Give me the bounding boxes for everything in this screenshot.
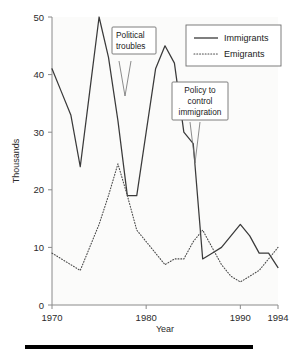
x-tick-label: 1970 [41, 312, 62, 323]
y-tick-label: 50 [33, 12, 44, 23]
x-axis: 1970198019901994 Year [41, 305, 288, 334]
y-axis-title: Thousands [11, 138, 21, 183]
chart-figure: 01020304050 Thousands 1970198019901994 Y… [0, 0, 306, 357]
annotation-line-1: Policy to [184, 85, 216, 95]
legend-box [186, 25, 281, 66]
y-axis-tickmarks [48, 17, 52, 305]
annotation-line-2: troubles [116, 41, 146, 51]
y-tick-label: 0 [39, 300, 44, 311]
x-tick-label: 1994 [267, 312, 288, 323]
bottom-divider-rule [25, 345, 253, 349]
x-axis-tickmarks [52, 305, 278, 309]
x-tick-label: 1980 [136, 312, 157, 323]
x-axis-title: Year [156, 324, 174, 334]
annotation-line-1: Political [116, 30, 145, 40]
x-tick-label: 1990 [230, 312, 251, 323]
y-axis-tick-labels: 01020304050 [33, 12, 44, 311]
legend-label-emigrants: Emigrants [224, 49, 265, 59]
chart-legend: Immigrants Emigrants [186, 25, 281, 66]
y-tick-label: 20 [33, 184, 44, 195]
x-axis-tick-labels: 1970198019901994 [41, 312, 288, 323]
annotation-line-2: control [188, 96, 213, 106]
legend-label-immigrants: Immigrants [224, 33, 269, 43]
y-tick-label: 30 [33, 127, 44, 138]
annotation-line-3: immigration [179, 107, 222, 117]
y-tick-label: 10 [33, 242, 44, 253]
y-axis: 01020304050 Thousands [11, 12, 52, 311]
immigration-emigration-line-chart: 01020304050 Thousands 1970198019901994 Y… [0, 0, 306, 357]
y-tick-label: 40 [33, 69, 44, 80]
